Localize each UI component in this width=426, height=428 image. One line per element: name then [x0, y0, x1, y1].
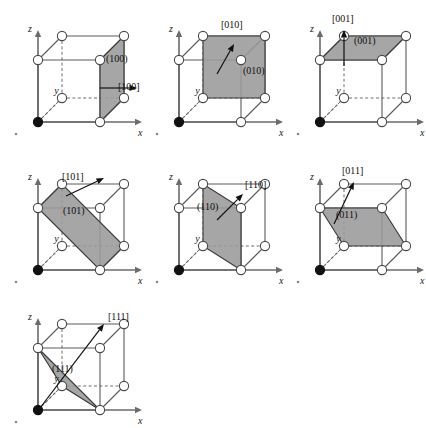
lattice-atom	[198, 93, 207, 102]
lattice-atom	[377, 117, 386, 126]
lattice-atom	[33, 55, 42, 64]
plane-011	[320, 208, 406, 246]
panel-111: zxy(111)[111]	[0, 288, 145, 428]
z-axis-label: z	[27, 171, 32, 182]
lattice-atom	[236, 265, 245, 274]
direction-010-label: [010]	[221, 19, 243, 30]
panel-001: zxy(001)[001]	[282, 0, 426, 140]
y-axis-label: y	[53, 233, 59, 244]
y-axis-label: y	[335, 233, 341, 244]
corner-marker-dot	[15, 133, 18, 136]
lattice-atom	[401, 179, 410, 188]
lattice-atom	[174, 203, 183, 212]
lattice-atom	[339, 179, 348, 188]
direction-111-label: [111]	[108, 311, 129, 322]
direction-100-label: [100]	[118, 81, 140, 92]
corner-marker-dot	[15, 281, 18, 284]
lattice-atom	[119, 93, 128, 102]
lattice-atom	[57, 31, 66, 40]
lattice-atom	[119, 31, 128, 40]
corner-marker-dot	[156, 133, 159, 136]
lattice-atom	[377, 203, 386, 212]
z-axis-label: z	[27, 23, 32, 34]
axes-group	[35, 30, 142, 125]
corner-marker-dot	[297, 281, 300, 284]
plane-100	[100, 36, 124, 122]
plane-001-label: (001)	[354, 35, 376, 47]
lattice-atom	[57, 319, 66, 328]
x-axis-label: x	[137, 415, 143, 426]
lattice-atom	[198, 241, 207, 250]
origin-atom	[33, 117, 42, 126]
z-axis-label: z	[168, 23, 173, 34]
lattice-atom	[198, 179, 207, 188]
lattice-atom	[377, 55, 386, 64]
corner-marker-dot	[15, 421, 18, 424]
lattice-atom	[119, 381, 128, 390]
panel-110: zxy(110)[110]	[141, 148, 286, 288]
lattice-atom	[95, 343, 104, 352]
lattice-atom	[95, 117, 104, 126]
origin-atom	[174, 265, 183, 274]
y-axis-label: y	[335, 85, 341, 96]
plane-111-label: (111)	[52, 363, 73, 375]
lattice-atom	[57, 241, 66, 250]
y-axis-label: y	[194, 233, 200, 244]
panel-101: zxy(101)[101]	[0, 148, 145, 288]
lattice-atom	[315, 55, 324, 64]
lattice-atom	[260, 31, 269, 40]
direction-101-label: [101]	[62, 171, 84, 182]
origin-atom	[315, 265, 324, 274]
plane-011-label: (011)	[336, 209, 357, 221]
y-axis-label: y	[53, 373, 59, 384]
lattice-atom	[339, 93, 348, 102]
lattice-atom	[95, 203, 104, 212]
z-axis-label: z	[309, 171, 314, 182]
lattice-atom	[260, 241, 269, 250]
origin-atom	[315, 117, 324, 126]
lattice-atom	[339, 241, 348, 250]
origin-atom	[33, 265, 42, 274]
panel-011: zxy(011)[011]	[282, 148, 426, 288]
lattice-atom	[401, 241, 410, 250]
lattice-atom	[174, 55, 183, 64]
y-axis-label: y	[53, 85, 59, 96]
lattice-atom	[95, 265, 104, 274]
corner-marker-dot	[156, 281, 159, 284]
panel-010: zxy(010)[010]	[141, 0, 286, 140]
z-axis-label: z	[168, 171, 173, 182]
plane-010-label: (010)	[243, 65, 265, 77]
lattice-atom	[57, 93, 66, 102]
direction-110-label: [110]	[245, 179, 266, 190]
z-axis-label: z	[309, 23, 314, 34]
direction-001-label: [001]	[332, 13, 354, 24]
lattice-atom	[119, 179, 128, 188]
x-axis-label: x	[419, 127, 425, 138]
lattice-atom	[236, 55, 245, 64]
lattice-atom	[33, 203, 42, 212]
lattice-atom	[377, 265, 386, 274]
z-axis-label: z	[27, 311, 32, 322]
lattice-atom	[236, 203, 245, 212]
lattice-atom	[401, 31, 410, 40]
plane-101-label: (101)	[63, 205, 85, 217]
lattice-atom	[236, 117, 245, 126]
plane-110	[203, 184, 241, 270]
lattice-atom	[198, 31, 207, 40]
lattice-atom	[33, 343, 42, 352]
plane-110-label: (110)	[197, 201, 218, 213]
direction-011-label: [011]	[342, 165, 363, 176]
lattice-atom	[260, 93, 269, 102]
lattice-atom	[95, 55, 104, 64]
panel-100: zxy(100)[100]	[0, 0, 145, 140]
origin-atom	[174, 117, 183, 126]
lattice-atom	[119, 241, 128, 250]
x-axis-label: x	[419, 275, 425, 286]
lattice-atom	[95, 405, 104, 414]
lattice-atom	[315, 203, 324, 212]
lattice-atom	[401, 93, 410, 102]
plane-100-label: (100)	[106, 53, 128, 65]
y-axis-label: y	[194, 85, 200, 96]
corner-marker-dot	[297, 133, 300, 136]
